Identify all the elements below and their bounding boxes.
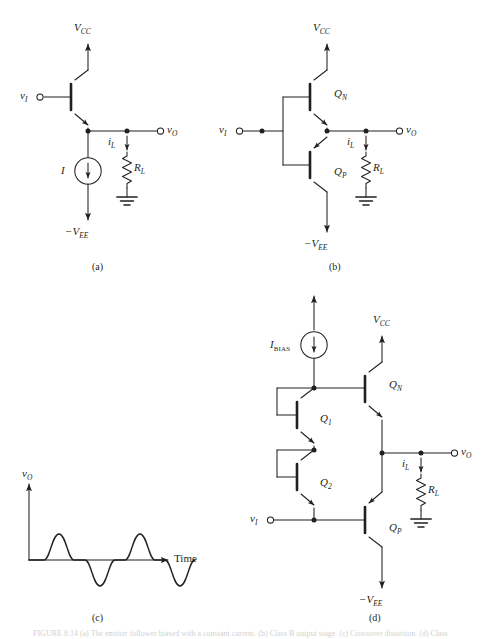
circuit-schematic-canvas — [0, 0, 482, 639]
label-vee-panel-b: −VEE — [304, 238, 328, 252]
label-vee-panel-a: −VEE — [65, 226, 89, 240]
label-rl-panel-a: RL — [134, 162, 145, 176]
panel-c-waveform — [29, 484, 195, 586]
label-q1-panel-d: Q1 — [320, 413, 332, 427]
panel-a-schematic — [37, 44, 164, 220]
panel-d-schematic — [267, 296, 457, 588]
label-q2-panel-d: Q2 — [320, 477, 332, 491]
figure-caption: FIGURE 8.14 (a) The emitter follower bia… — [33, 629, 453, 639]
label-vcc-panel-a: VCC — [74, 22, 91, 36]
label-vi-panel-d: vI — [250, 513, 258, 527]
panel-tag-a: (a) — [92, 261, 103, 272]
figure-output-stages: VCC vI vO I iL RL −VEE (a) VCC vI vO QN … — [0, 0, 482, 639]
label-rl-panel-b: RL — [373, 162, 384, 176]
label-qp-panel-d: QP — [389, 522, 402, 536]
label-vo-panel-d: vO — [461, 446, 471, 460]
label-rl-panel-d: RL — [428, 484, 439, 498]
label-il-panel-d: iL — [402, 458, 409, 472]
label-vee-panel-d: −VEE — [359, 594, 383, 608]
panel-tag-b: (b) — [329, 261, 341, 272]
label-time-axis-panel-c: Time — [174, 553, 197, 564]
label-qn-panel-d: QN — [389, 379, 402, 393]
label-vo-panel-a: vO — [167, 124, 177, 138]
label-qp-panel-b: QP — [334, 166, 347, 180]
label-vcc-panel-d: VCC — [373, 314, 390, 328]
label-vo-panel-b: vO — [406, 124, 416, 138]
label-current-source-panel-a: I — [61, 165, 65, 176]
label-il-panel-a: iL — [108, 136, 115, 150]
label-vi-panel-b: vI — [219, 124, 227, 138]
panel-tag-d: (d) — [369, 612, 381, 623]
label-vcc-panel-b: VCC — [313, 22, 330, 36]
label-vi-panel-a: vI — [20, 90, 28, 104]
label-il-panel-b: iL — [347, 136, 354, 150]
label-vo-axis-panel-c: vO — [22, 468, 32, 482]
panel-b-schematic — [236, 44, 402, 232]
label-ibias-panel-d: IBIAS — [270, 339, 290, 353]
label-qn-panel-b: QN — [334, 88, 347, 102]
panel-tag-c: (c) — [92, 612, 103, 623]
